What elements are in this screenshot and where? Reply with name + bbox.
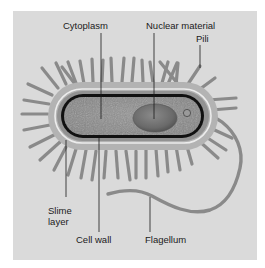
label-flagellum: Flagellum [145,234,186,245]
cytoplasm [64,97,201,135]
label-cytoplasm: Cytoplasm [63,20,108,31]
nuclear-material [133,104,177,132]
bacterial-cell-illustration [0,0,265,268]
label-slime-layer: Slime layer [48,205,78,227]
label-cell-wall: Cell wall [76,234,111,245]
flagellum-basal-body [183,109,190,116]
label-pili: Pili [196,33,209,44]
diagram-stage: Cytoplasm Nuclear material Pili Slime la… [0,0,265,268]
label-nuclear-material: Nuclear material [146,20,215,31]
